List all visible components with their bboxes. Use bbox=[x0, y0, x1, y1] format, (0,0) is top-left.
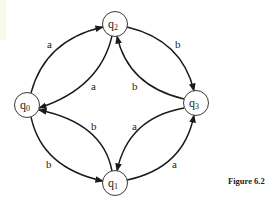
edge-label-q1-q3: a bbox=[172, 158, 177, 170]
edge-label-q0-q1: b bbox=[46, 158, 52, 170]
edge-q3-to-q2 bbox=[117, 36, 184, 99]
state-q1: q1 bbox=[103, 171, 128, 196]
state-q3-subscript: 3 bbox=[195, 102, 199, 111]
edge-label-q3-q2: b bbox=[132, 80, 138, 92]
edge-label-q2-q0: a bbox=[91, 80, 96, 92]
state-q3: q3 bbox=[184, 91, 209, 116]
edge-label-q3-q1: a bbox=[132, 120, 137, 132]
state-q1-subscript: 1 bbox=[114, 182, 118, 191]
state-q0: q0 bbox=[15, 93, 40, 118]
figure-caption: Figure 6.2 bbox=[228, 176, 265, 186]
edge-label-q0-q2: a bbox=[47, 38, 52, 50]
edge-label-q1-q0: b bbox=[91, 120, 97, 132]
state-q2: q2 bbox=[103, 12, 128, 37]
edge-label-q2-q3: b bbox=[175, 38, 181, 50]
edge-q1-to-q3 bbox=[127, 115, 194, 180]
state-q0-subscript: 0 bbox=[26, 104, 30, 113]
state-q2-subscript: 2 bbox=[114, 23, 118, 32]
